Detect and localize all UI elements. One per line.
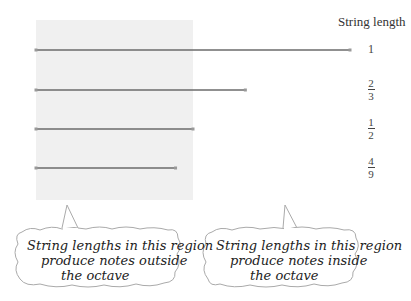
string-length-label: 49 — [366, 155, 376, 179]
string-length-label: 12 — [366, 116, 376, 140]
callout-line: the octave — [216, 268, 402, 283]
callout-line: produce notes inside — [216, 253, 402, 268]
fraction: 49 — [368, 156, 375, 179]
label-value: 1 — [368, 42, 374, 56]
fraction: 23 — [368, 78, 375, 101]
numerator: 2 — [368, 78, 374, 88]
string-endpoint — [35, 128, 38, 131]
callout-inside-octave: String lengths in this region produce no… — [216, 238, 402, 283]
callout-line: String lengths in this region — [27, 238, 213, 253]
denominator: 9 — [368, 169, 374, 179]
callout-outside-octave: String lengths in this region produce no… — [27, 238, 213, 283]
fraction: 12 — [368, 117, 375, 140]
string-endpoint — [35, 49, 38, 52]
string-endpoint — [349, 49, 352, 52]
denominator: 3 — [368, 91, 374, 101]
callout-line: the octave — [27, 268, 213, 283]
numerator: 1 — [368, 117, 374, 127]
string-length-label: 23 — [366, 77, 376, 101]
string-endpoint — [35, 89, 38, 92]
numerator: 4 — [368, 156, 374, 166]
string-length-label: 1 — [366, 42, 376, 57]
string-endpoint — [244, 89, 247, 92]
callout-line: String lengths in this region — [216, 238, 402, 253]
callout-line: produce notes outside — [27, 253, 213, 268]
string-endpoint — [35, 167, 38, 170]
denominator: 2 — [368, 130, 374, 140]
string-endpoint — [174, 167, 177, 170]
string-endpoint — [192, 128, 195, 131]
